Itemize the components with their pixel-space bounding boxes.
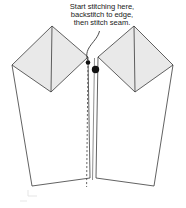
figure-corner-mark [20,190,37,201]
diagram-canvas [0,0,186,208]
sewing-diagram-figure: Start stitching here, backstitch to edge… [0,0,186,208]
center-seam-edge [93,58,95,180]
annotation-leader-line [87,31,100,60]
leader-arrow-tip [86,60,91,65]
stitch-start-dot [92,66,99,73]
